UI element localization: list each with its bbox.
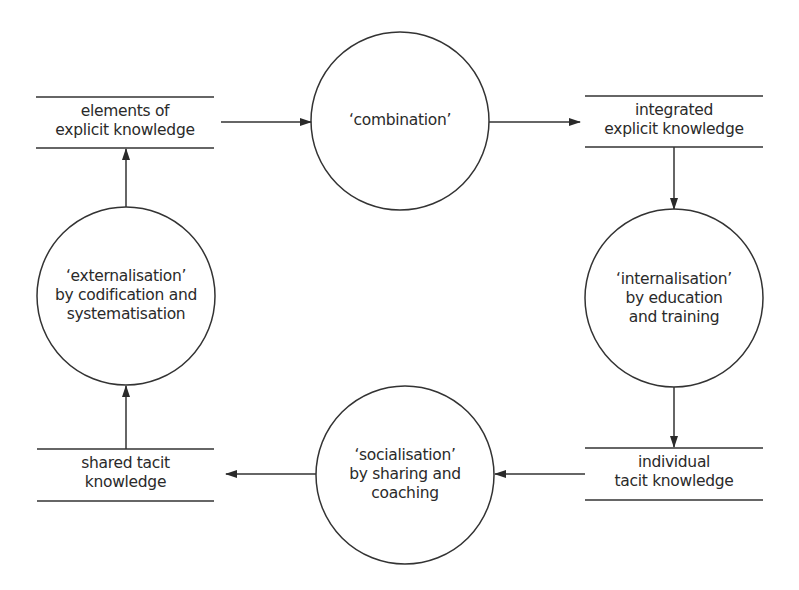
store-shared-line-1: shared tacit bbox=[37, 454, 214, 473]
process-socialisation-line-2: by sharing and bbox=[316, 465, 494, 484]
process-internalisation-line-1: ‘internalisation’ bbox=[585, 270, 763, 289]
store-individual-line-1: individual bbox=[585, 453, 763, 472]
store-individual-line-2: tacit knowledge bbox=[585, 472, 763, 491]
process-externalisation-label: ‘externalisation’ by codification and sy… bbox=[27, 267, 225, 324]
process-externalisation-line-2: by codification and bbox=[27, 286, 225, 305]
process-socialisation-label: ‘socialisation’ by sharing and coaching bbox=[316, 446, 494, 503]
store-shared-line-2: knowledge bbox=[37, 473, 214, 492]
store-integrated-line-2: explicit knowledge bbox=[585, 120, 763, 139]
process-internalisation-line-3: and training bbox=[585, 308, 763, 327]
process-externalisation-line-1: ‘externalisation’ bbox=[27, 267, 225, 286]
store-individual-label: individual tacit knowledge bbox=[585, 453, 763, 491]
process-internalisation-line-2: by education bbox=[585, 289, 763, 308]
store-integrated-line-1: integrated bbox=[585, 101, 763, 120]
store-elements-label: elements of explicit knowledge bbox=[36, 102, 214, 140]
store-elements-line-1: elements of bbox=[36, 102, 214, 121]
store-shared-label: shared tacit knowledge bbox=[37, 454, 214, 492]
store-integrated-label: integrated explicit knowledge bbox=[585, 101, 763, 139]
process-socialisation-line-1: ‘socialisation’ bbox=[316, 446, 494, 465]
store-elements-line-2: explicit knowledge bbox=[36, 121, 214, 140]
process-externalisation-line-3: systematisation bbox=[27, 305, 225, 324]
process-internalisation-label: ‘internalisation’ by education and train… bbox=[585, 270, 763, 327]
process-socialisation-line-3: coaching bbox=[316, 484, 494, 503]
process-combination-label: ‘combination’ bbox=[311, 111, 489, 130]
process-combination-line-1: ‘combination’ bbox=[311, 111, 489, 130]
